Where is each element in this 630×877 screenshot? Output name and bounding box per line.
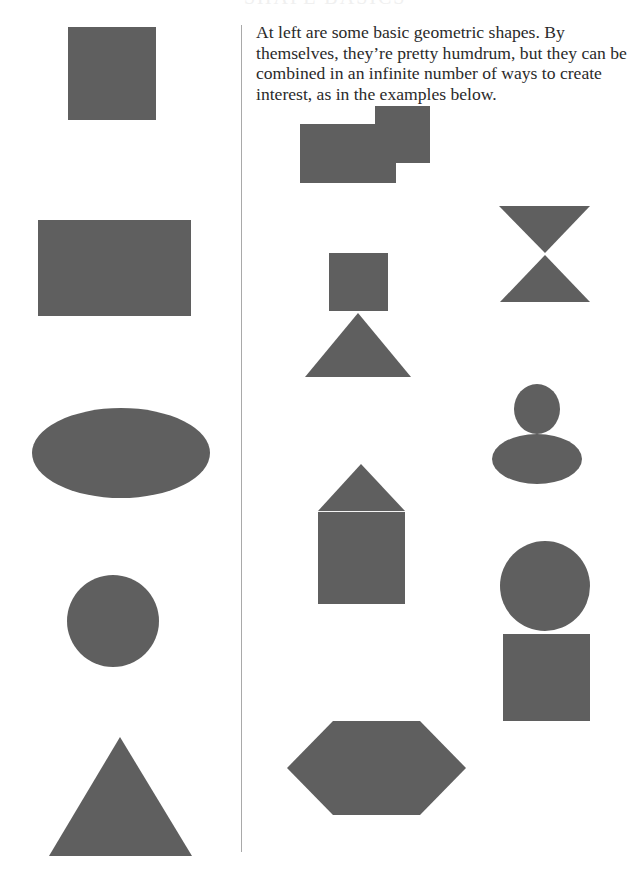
bottom-triangle <box>305 313 411 377</box>
basic-square <box>68 27 156 120</box>
example-hexagon <box>287 721 466 815</box>
basic-circle <box>67 575 159 667</box>
bottom-square <box>503 634 590 721</box>
example-square-on-triangle <box>305 253 411 377</box>
house-square <box>318 511 405 604</box>
body-oval <box>492 434 582 484</box>
head-circle <box>514 384 560 434</box>
basic-rectangle <box>38 220 191 316</box>
upright-triangle <box>500 255 590 302</box>
basic-triangle <box>49 737 192 856</box>
hexagon <box>287 721 466 815</box>
top-square <box>329 253 388 311</box>
large-rectangle <box>300 124 396 183</box>
top-circle <box>500 541 590 631</box>
example-circle-on-square <box>500 541 590 721</box>
roof-triangle <box>318 464 405 511</box>
inverted-triangle <box>499 206 590 253</box>
example-overlapping-rectangles <box>300 106 430 183</box>
example-circle-on-oval <box>492 384 582 484</box>
example-house <box>318 464 405 604</box>
basic-oval <box>32 408 210 498</box>
basic-shapes-column <box>32 27 210 856</box>
shapes-canvas <box>0 0 630 877</box>
page: SHAPE BASICS At left are some basic geom… <box>0 0 630 877</box>
example-hourglass <box>499 206 590 302</box>
